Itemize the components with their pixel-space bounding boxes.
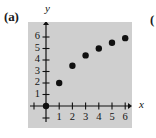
y-tick-label: 2 — [30, 76, 40, 87]
x-tick-label: 6 — [119, 111, 131, 122]
x-tick-label: 4 — [93, 111, 105, 122]
data-point — [69, 63, 75, 69]
y-tick-label: 4 — [30, 53, 40, 64]
figure-container: (a) ( y x 123456123456 — [0, 0, 156, 138]
y-tick-label: 1 — [30, 88, 40, 99]
data-point — [56, 80, 62, 86]
x-axis-arrow — [128, 103, 132, 109]
data-point — [109, 40, 115, 46]
y-axis-arrow — [43, 22, 49, 25]
data-point — [122, 35, 128, 41]
data-points-group — [43, 35, 129, 109]
panel-label: (a) — [4, 9, 19, 25]
y-tick-label: 5 — [30, 42, 40, 53]
x-tick-label: 5 — [106, 111, 118, 122]
data-point — [82, 52, 88, 58]
next-panel-label-partial: ( — [150, 12, 156, 28]
x-tick-label: 1 — [53, 111, 65, 122]
data-point — [96, 45, 102, 51]
x-axis-label: x — [139, 98, 144, 110]
data-point — [43, 103, 49, 109]
y-axis-label: y — [45, 2, 50, 14]
x-tick-label: 3 — [80, 111, 92, 122]
y-tick-label: 3 — [30, 65, 40, 76]
y-tick-label: 6 — [30, 30, 40, 41]
x-tick-label: 2 — [66, 111, 78, 122]
